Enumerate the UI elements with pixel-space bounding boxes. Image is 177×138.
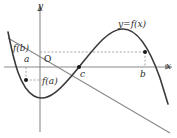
function-label: y=f(x) [118,20,146,29]
origin-label: O [44,55,51,64]
c-tick-label: c [80,70,85,79]
y-axis-label: y [38,2,43,11]
point-a [24,78,28,82]
b-tick-label: b [140,70,146,79]
f-a-label: f(a) [42,77,58,86]
figure-canvas: y x O a b c f(a) f(b) y=f(x) [0,0,177,138]
x-axis-group [4,64,172,69]
x-axis-label: x [166,62,171,71]
a-tick-label: a [24,55,29,64]
function-graph-svg [0,0,177,138]
point-b [143,50,147,54]
f-b-label: f(b) [13,44,29,53]
y-axis-group [37,4,42,132]
